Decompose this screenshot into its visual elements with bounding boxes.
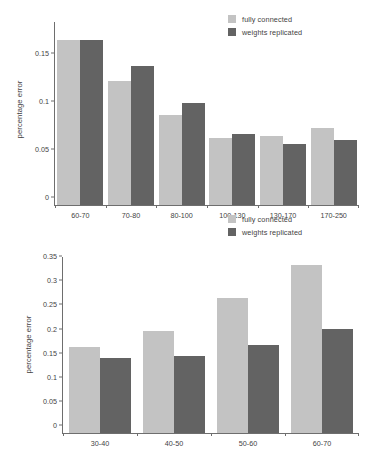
- bar-weights-replicated: [174, 356, 205, 433]
- y-tick-mark: [51, 100, 54, 101]
- x-tick-mark: [106, 205, 107, 208]
- x-tick-label: 60-70: [71, 211, 89, 220]
- y-axis-label-bottom: percentage error: [24, 310, 33, 380]
- y-tick-label: 0.05: [43, 396, 57, 405]
- bar-group: 40-50: [137, 257, 211, 433]
- y-tick-mark: [51, 52, 54, 53]
- y-tick: 0: [45, 193, 54, 202]
- x-tick-label: 30-40: [91, 439, 109, 448]
- y-axis-label-top: percentage error: [15, 75, 24, 145]
- bar-group-container-top: 60-7070-8080-100100-130130-170170-250: [55, 22, 359, 205]
- x-tick-mark: [358, 205, 359, 208]
- bar-weights-replicated: [334, 140, 357, 205]
- y-tick-mark: [59, 425, 62, 426]
- legend-item-weights-replicated: weights replicated: [228, 227, 302, 237]
- bar-fully-connected: [57, 40, 80, 205]
- x-tick-mark: [258, 205, 259, 208]
- x-tick-label: 80-100: [170, 211, 192, 220]
- y-tick-mark: [59, 376, 62, 377]
- bar-weights-replicated: [322, 329, 353, 433]
- legend-swatch-fully-connected: [228, 215, 236, 223]
- y-tick: 0.05: [43, 396, 62, 405]
- y-tick-label: 0.1: [47, 372, 57, 381]
- bar-weights-replicated: [80, 40, 103, 205]
- y-tick: 0: [53, 421, 62, 430]
- legend-bottom: fully connected weights replicated: [228, 214, 302, 237]
- legend-label-weights-replicated: weights replicated: [242, 228, 302, 237]
- x-tick-mark: [137, 433, 138, 436]
- bar-fully-connected: [108, 81, 131, 205]
- y-tick-mark: [59, 256, 62, 257]
- y-tick: 0.15: [35, 48, 54, 57]
- bar-group: 80-100: [156, 22, 207, 205]
- bar-group: 50-60: [211, 257, 285, 433]
- bar-group: 170-250: [308, 22, 359, 205]
- y-tick: 0.1: [47, 372, 62, 381]
- bar-weights-replicated: [248, 345, 279, 433]
- bar-weights-replicated: [131, 66, 154, 205]
- y-tick: 0.05: [35, 144, 54, 153]
- y-tick-label: 0.15: [43, 348, 57, 357]
- y-tick-mark: [51, 197, 54, 198]
- x-tick-label: 50-60: [239, 439, 257, 448]
- bar-group: 130-170: [258, 22, 309, 205]
- bar-group: 100-130: [207, 22, 258, 205]
- bar-fully-connected: [69, 347, 100, 433]
- y-tick-label: 0.2: [47, 324, 57, 333]
- x-tick-mark: [55, 205, 56, 208]
- bar-group: 30-40: [63, 257, 137, 433]
- y-tick-mark: [51, 148, 54, 149]
- x-tick-label: 70-80: [122, 211, 140, 220]
- y-tick: 0.1: [39, 96, 54, 105]
- x-tick-label: 60-70: [313, 439, 331, 448]
- x-tick-mark: [285, 433, 286, 436]
- bar-group-container-bottom: 30-4040-5050-6060-70: [63, 257, 359, 433]
- y-tick-label: 0.15: [35, 48, 49, 57]
- x-tick-mark: [63, 433, 64, 436]
- bar-fully-connected: [291, 265, 322, 433]
- y-tick-mark: [59, 280, 62, 281]
- x-tick-label: 170-250: [320, 211, 346, 220]
- bar-group: 70-80: [106, 22, 157, 205]
- legend-label-fully-connected: fully connected: [242, 215, 292, 224]
- y-tick-mark: [59, 328, 62, 329]
- x-tick-mark: [308, 205, 309, 208]
- chart-figure-top: fully connected weights replicated perce…: [0, 0, 379, 228]
- x-tick-mark: [156, 205, 157, 208]
- chart-figure-bottom: fully connected weights replicated perce…: [0, 228, 379, 471]
- y-tick-label: 0: [53, 421, 57, 430]
- x-tick-mark: [207, 205, 208, 208]
- y-tick-mark: [59, 352, 62, 353]
- y-tick-label: 0.35: [43, 252, 57, 261]
- bar-group: 60-70: [285, 257, 359, 433]
- y-tick: 0.15: [43, 348, 62, 357]
- x-tick-mark: [211, 433, 212, 436]
- y-tick-label: 0.05: [35, 144, 49, 153]
- y-tick: 0.2: [47, 324, 62, 333]
- bar-weights-replicated: [100, 358, 131, 433]
- bar-group: 60-70: [55, 22, 106, 205]
- legend-item-fully-connected: fully connected: [228, 214, 302, 224]
- bar-weights-replicated: [283, 144, 306, 205]
- bar-weights-replicated: [232, 134, 255, 205]
- bar-fully-connected: [143, 331, 174, 433]
- bar-fully-connected: [260, 136, 283, 205]
- legend-swatch-weights-replicated: [228, 228, 236, 236]
- x-tick-label: 40-50: [165, 439, 183, 448]
- y-tick-label: 0.25: [43, 300, 57, 309]
- y-tick: 0.35: [43, 252, 62, 261]
- x-tick-mark: [358, 433, 359, 436]
- y-tick-label: 0: [45, 193, 49, 202]
- plot-area-bottom: 30-4040-5050-6060-70 00.050.10.150.20.25…: [62, 257, 359, 434]
- y-tick-label: 0.3: [47, 276, 57, 285]
- y-tick-label: 0.1: [39, 96, 49, 105]
- y-tick-mark: [59, 304, 62, 305]
- plot-area-top: 60-7070-8080-100100-130130-170170-250 00…: [54, 22, 359, 206]
- bar-fully-connected: [159, 115, 182, 205]
- bar-fully-connected: [209, 138, 232, 205]
- y-tick: 0.3: [47, 276, 62, 285]
- bar-fully-connected: [311, 128, 334, 205]
- bar-fully-connected: [217, 298, 248, 433]
- bar-weights-replicated: [182, 103, 205, 205]
- y-tick: 0.25: [43, 300, 62, 309]
